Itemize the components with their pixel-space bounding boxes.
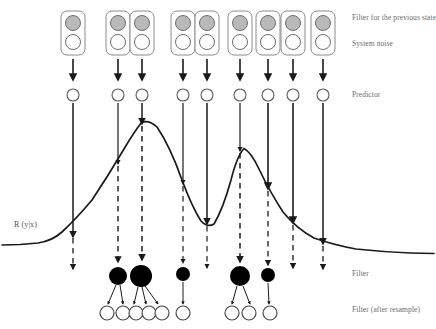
- state-box[interactable]: [228, 11, 252, 55]
- previous-state-circle: [135, 16, 150, 31]
- state-box[interactable]: [195, 11, 219, 55]
- predictor-circle[interactable]: [234, 89, 246, 101]
- state-box[interactable]: [130, 11, 154, 55]
- previous-state-circle: [316, 16, 331, 31]
- predictor-to-curve-arrows: [73, 103, 323, 244]
- state-box[interactable]: [106, 11, 130, 55]
- state-box[interactable]: [61, 11, 85, 55]
- box-to-predictor-arrows: [73, 59, 323, 80]
- filter-particle[interactable]: [130, 265, 152, 287]
- resampled-particle[interactable]: [129, 306, 143, 320]
- resampled-particle[interactable]: [100, 306, 114, 320]
- filter-particle[interactable]: [109, 267, 127, 285]
- system-noise-circle: [316, 35, 331, 50]
- system-noise-circle: [111, 35, 126, 50]
- predictor-circle[interactable]: [201, 89, 213, 101]
- state-box[interactable]: [171, 11, 195, 55]
- previous-state-circle: [66, 16, 81, 31]
- filter-particle-group: [109, 265, 275, 287]
- resample-arrow: [134, 287, 138, 304]
- resampled-particle[interactable]: [155, 306, 169, 320]
- resample-arrow: [232, 286, 237, 304]
- resampled-particle[interactable]: [142, 306, 156, 320]
- filter-particle[interactable]: [176, 267, 190, 281]
- system-noise-circle: [261, 35, 276, 50]
- previous-state-circle: [261, 16, 276, 31]
- state-box-group: [61, 11, 335, 55]
- predictor-circle[interactable]: [317, 89, 329, 101]
- system-noise-circle: [233, 35, 248, 50]
- filter-particle[interactable]: [261, 268, 275, 282]
- resampled-particle[interactable]: [225, 306, 239, 320]
- state-box[interactable]: [256, 11, 280, 55]
- predictor-circle-group: [67, 89, 329, 101]
- label-filter-after-resample: Filter (after resample): [352, 305, 420, 314]
- system-noise-circle: [66, 35, 81, 50]
- predictor-circle[interactable]: [136, 89, 148, 101]
- filter-particle[interactable]: [230, 266, 250, 286]
- resample-arrow: [268, 283, 269, 304]
- resample-arrow: [145, 286, 158, 304]
- resampled-particle[interactable]: [176, 306, 190, 320]
- system-noise-circle: [286, 35, 301, 50]
- weight-dashed-lines: [73, 126, 323, 269]
- system-noise-circle: [200, 35, 215, 50]
- system-noise-circle: [176, 35, 191, 50]
- previous-state-circle: [233, 16, 248, 31]
- system-noise-circle: [135, 35, 150, 50]
- predictor-circle[interactable]: [177, 89, 189, 101]
- resample-arrow: [243, 286, 250, 304]
- resampled-particle-group: [100, 306, 277, 320]
- resampled-particle[interactable]: [116, 306, 130, 320]
- particle-filter-diagram: [0, 0, 436, 329]
- resample-arrows: [108, 282, 269, 304]
- curve-label-likelihood: R (y|x): [14, 220, 37, 229]
- predictor-circle[interactable]: [112, 89, 124, 101]
- resample-arrow: [108, 285, 116, 304]
- previous-state-circle: [286, 16, 301, 31]
- diagram-canvas: R (y|x) Filter for the previous state Sy…: [0, 0, 436, 329]
- state-box[interactable]: [281, 11, 305, 55]
- resample-arrow: [142, 287, 146, 304]
- previous-state-circle: [200, 16, 215, 31]
- state-box[interactable]: [311, 11, 335, 55]
- label-system-noise: System noise: [352, 39, 393, 48]
- predictor-circle[interactable]: [287, 89, 299, 101]
- label-predictor: Predictor: [352, 90, 380, 99]
- likelihood-curve: [2, 122, 434, 254]
- resampled-particle[interactable]: [242, 306, 256, 320]
- predictor-circle[interactable]: [262, 89, 274, 101]
- resample-arrow: [120, 285, 123, 304]
- previous-state-circle: [176, 16, 191, 31]
- label-filter: Filter: [352, 269, 369, 278]
- resampled-particle[interactable]: [263, 306, 277, 320]
- previous-state-circle: [111, 16, 126, 31]
- predictor-circle[interactable]: [67, 89, 79, 101]
- label-filter-previous-state: Filter for the previous state: [352, 13, 436, 22]
